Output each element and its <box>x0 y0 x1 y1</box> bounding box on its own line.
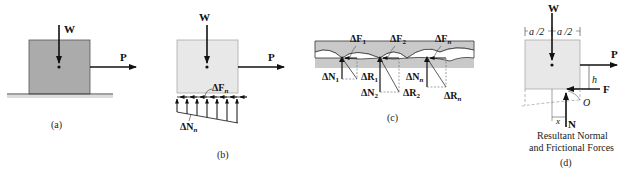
caption-d: (d) <box>560 157 572 169</box>
panel-a: W P (a) <box>7 23 136 131</box>
normal-distribution <box>177 99 238 123</box>
ground-shade <box>7 95 113 98</box>
normal-label: N <box>568 118 576 130</box>
svg-text:ΔRn: ΔRn <box>444 90 462 103</box>
push-label: P <box>611 48 618 60</box>
panel-c: ΔF1 ΔN1 ΔR1 ΔF2 ΔN2 ΔR2 ΔFn <box>315 33 474 124</box>
point-o-label: O <box>583 97 590 108</box>
offset-label: x <box>555 116 560 126</box>
svg-text:ΔN2: ΔN2 <box>361 87 379 100</box>
friction-label: F <box>603 83 610 95</box>
center-of-mass <box>205 65 208 68</box>
weight-label: W <box>548 2 559 14</box>
weight-label: W <box>64 23 75 35</box>
caption-b: (b) <box>217 149 229 161</box>
svg-text:ΔR2: ΔR2 <box>403 87 421 100</box>
note-line-1: Resultant Normal <box>537 130 608 141</box>
note-line-2: and Frictional Forces <box>529 142 614 153</box>
svg-text:ΔR1: ΔR1 <box>361 71 379 84</box>
svg-text:ΔN1: ΔN1 <box>322 71 340 84</box>
half-width-right-label: a /2 <box>557 26 572 37</box>
half-width-left-label: a /2 <box>529 26 544 37</box>
friction-figure: W P (a) W P <box>0 0 634 179</box>
weight-label: W <box>199 11 210 23</box>
panel-d: a /2 a /2 W P h F N O x Resultant Normal… <box>522 2 618 169</box>
caption-c: (c) <box>387 112 398 124</box>
push-label: P <box>120 51 127 63</box>
push-label: P <box>268 51 275 63</box>
normal-leader <box>189 114 191 121</box>
center-of-mass <box>57 65 60 68</box>
height-label: h <box>592 74 597 85</box>
svg-text:ΔNn: ΔNn <box>406 71 424 84</box>
normal-label: ΔNn <box>180 121 198 134</box>
panel-b: W P ΔFn ΔNn (b) <box>177 11 284 161</box>
caption-a: (a) <box>51 119 62 131</box>
center-of-mass <box>550 63 553 66</box>
